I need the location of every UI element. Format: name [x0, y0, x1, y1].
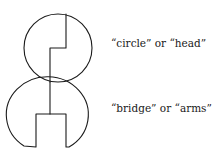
head-label: “circle” or “head”	[111, 38, 206, 49]
figure-drawing	[0, 0, 214, 158]
arms-bridge-shape	[6, 77, 88, 147]
head-step-line	[50, 14, 66, 82]
diagram-canvas: “circle” or “head” “bridge” or “arms”	[0, 0, 214, 158]
arms-label: “bridge” or “arms”	[111, 103, 212, 114]
